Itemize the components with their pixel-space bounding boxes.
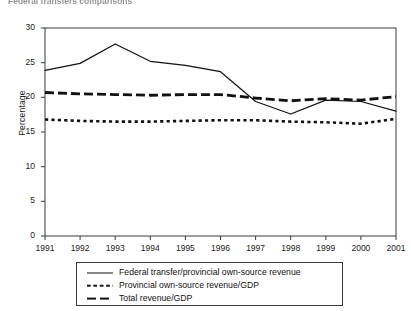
x-tick-label: 1993: [98, 243, 132, 253]
x-tick-label: 2000: [344, 243, 378, 253]
x-tick-label: 1996: [204, 243, 238, 253]
x-tick-label: 1991: [28, 243, 62, 253]
x-tick-label: 1999: [309, 243, 343, 253]
legend-label: Total revenue/GDP: [119, 292, 192, 305]
y-tick-label: 5: [13, 195, 35, 205]
legend-item-provincial-own-source: Provincial own-source revenue/GDP: [87, 279, 342, 292]
x-tick-label: 2001: [379, 243, 411, 253]
legend-label: Provincial own-source revenue/GDP: [119, 279, 259, 292]
legend-swatch-dashed-icon: [87, 294, 113, 304]
y-tick-label: 15: [13, 126, 35, 136]
x-tick-marks: [45, 236, 396, 240]
x-tick-label: 1997: [239, 243, 273, 253]
x-tick-label: 1995: [168, 243, 202, 253]
y-tick-label: 30: [13, 22, 35, 32]
x-tick-label: 1992: [63, 243, 97, 253]
y-tick-marks: [41, 28, 45, 236]
plot-border: [45, 28, 396, 236]
y-tick-label: 10: [13, 161, 35, 171]
chart-figure: Federal transfers comparisons Percentage…: [0, 0, 411, 311]
legend-swatch-dotted-icon: [87, 281, 113, 291]
y-tick-label: 0: [13, 230, 35, 240]
x-tick-label: 1994: [133, 243, 167, 253]
y-tick-label: 20: [13, 91, 35, 101]
legend-item-total-revenue: Total revenue/GDP: [87, 292, 342, 305]
y-tick-label: 25: [13, 57, 35, 67]
legend-item-federal-transfer: Federal transfer/provincial own-source r…: [87, 266, 342, 279]
x-tick-label: 1998: [274, 243, 308, 253]
legend-label: Federal transfer/provincial own-source r…: [119, 266, 301, 279]
chart-legend: Federal transfer/provincial own-source r…: [76, 262, 343, 306]
legend-swatch-solid-icon: [87, 268, 113, 278]
